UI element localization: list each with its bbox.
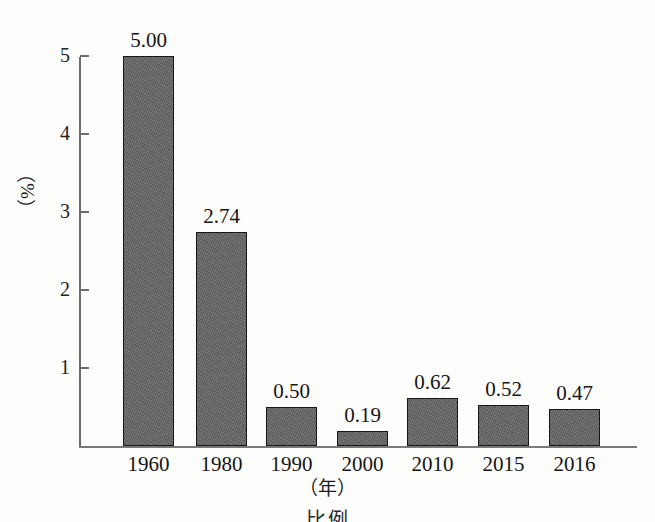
bar bbox=[266, 407, 317, 446]
y-axis-tick-label: 1 bbox=[50, 357, 70, 377]
bar bbox=[337, 431, 388, 446]
bar-fill-texture bbox=[124, 57, 173, 445]
y-axis-tick-label: 3 bbox=[50, 201, 70, 221]
bar-fill-texture bbox=[479, 406, 528, 445]
y-axis-tick-label: 4 bbox=[50, 123, 70, 143]
x-axis-category-label: 2016 bbox=[535, 452, 614, 476]
y-axis-tick-mark bbox=[80, 211, 89, 213]
bar-value-label: 0.19 bbox=[323, 405, 402, 426]
x-axis-category-label: 2000 bbox=[323, 452, 402, 476]
bar-value-label: 0.47 bbox=[535, 383, 614, 404]
bar-value-label: 5.00 bbox=[109, 30, 188, 51]
x-axis-category-label: 1990 bbox=[252, 452, 331, 476]
x-axis-category-label: 2015 bbox=[464, 452, 543, 476]
y-axis-tick-label: 5 bbox=[50, 45, 70, 65]
y-axis-tick-label: 2 bbox=[50, 279, 70, 299]
x-axis-line bbox=[79, 446, 637, 448]
bar-fill-texture bbox=[197, 233, 246, 445]
bar bbox=[478, 405, 529, 446]
x-axis-title: （年） bbox=[0, 479, 655, 499]
bar-fill-texture bbox=[338, 432, 387, 445]
bar-fill-texture bbox=[267, 408, 316, 445]
x-axis-category-label: 1980 bbox=[182, 452, 261, 476]
bar bbox=[549, 409, 600, 446]
bar-value-label: 0.52 bbox=[464, 379, 543, 400]
figure-caption: 比例 bbox=[0, 509, 655, 522]
x-axis-category-label: 1960 bbox=[109, 452, 188, 476]
y-axis-line bbox=[79, 57, 81, 447]
bar-fill-texture bbox=[408, 399, 457, 445]
y-axis-tick-mark bbox=[80, 367, 89, 369]
y-axis-tick-mark bbox=[80, 55, 89, 57]
bar bbox=[123, 56, 174, 446]
bar bbox=[407, 398, 458, 446]
bar bbox=[196, 232, 247, 446]
y-axis-title: （%） bbox=[18, 164, 37, 218]
bar-value-label: 0.62 bbox=[393, 372, 472, 393]
y-axis-tick-mark bbox=[80, 133, 89, 135]
bar-value-label: 2.74 bbox=[182, 206, 261, 227]
x-axis-category-label: 2010 bbox=[393, 452, 472, 476]
bar-value-label: 0.50 bbox=[252, 381, 331, 402]
bar-fill-texture bbox=[550, 410, 599, 445]
figure-container: 12345 5.002.740.500.190.620.520.47 19601… bbox=[0, 0, 655, 522]
y-axis-tick-mark bbox=[80, 289, 89, 291]
bar-chart-plot-area: 12345 5.002.740.500.190.620.520.47 19601… bbox=[0, 0, 655, 522]
